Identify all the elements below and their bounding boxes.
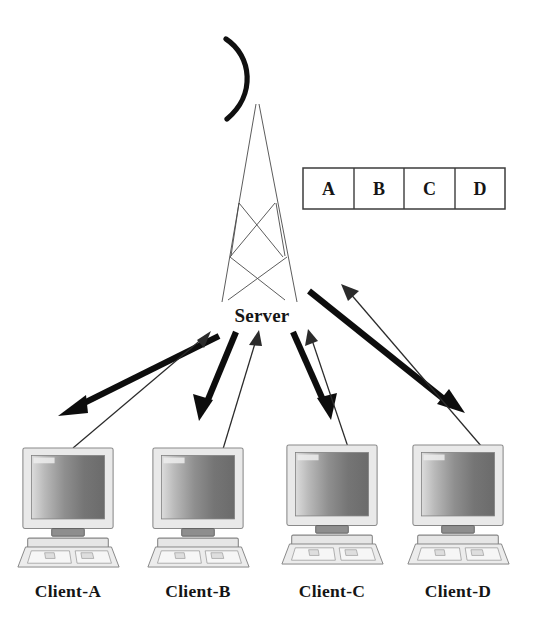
downlink-arrow-client-a	[58, 336, 219, 416]
network-diagram-svg: Server A B C D	[0, 0, 545, 630]
client-label-b: Client-B	[165, 581, 231, 601]
table-cell-b: B	[373, 179, 385, 199]
diagram-canvas: Server A B C D	[0, 0, 545, 630]
uplink-arrow-client-d	[341, 284, 482, 447]
client-label-a: Client-A	[35, 581, 102, 601]
uplink-arrow-client-a	[73, 331, 211, 448]
client-label-d: Client-D	[425, 581, 492, 601]
keyboard-icon	[282, 544, 383, 564]
keyboard-icon	[148, 547, 249, 567]
server-label: Server	[235, 305, 290, 326]
packet-table: A B C D	[303, 168, 505, 209]
table-cell-c: C	[423, 179, 436, 199]
table-cell-d: D	[474, 179, 487, 199]
keyboard-icon	[408, 544, 509, 564]
client-node-c[interactable]: Client-C	[282, 445, 383, 601]
keyboard-icon	[18, 547, 119, 567]
client-node-a[interactable]: Client-A	[18, 448, 119, 601]
antenna-tower-icon	[222, 104, 297, 302]
table-cell-a: A	[322, 179, 335, 199]
client-node-b[interactable]: Client-B	[148, 448, 249, 601]
downlink-arrow-client-c	[293, 332, 337, 420]
client-node-d[interactable]: Client-D	[408, 445, 509, 601]
client-label-c: Client-C	[299, 581, 366, 601]
uplink-arrow-client-c	[305, 329, 349, 450]
satellite-dish-icon	[226, 39, 247, 119]
